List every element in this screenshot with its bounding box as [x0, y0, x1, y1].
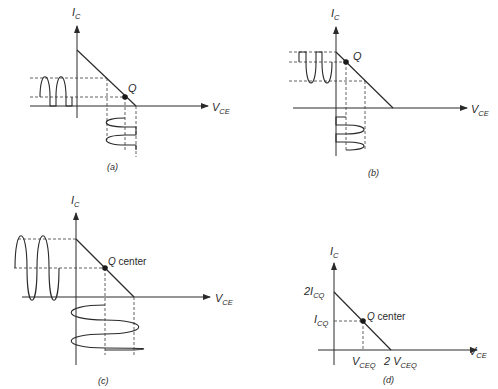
q-point: [343, 59, 349, 65]
x-axis-label: VCE: [471, 103, 490, 118]
x-axis-label: VCE: [469, 345, 488, 360]
y-axis-label: IC: [71, 194, 80, 209]
q-center-label: Q center: [367, 311, 406, 322]
output-waveform: [106, 118, 136, 150]
panel-c: Q center IC VCE (c): [14, 194, 234, 386]
q-point: [102, 265, 108, 271]
y-axis-label: IC: [72, 6, 81, 21]
panel-d: Q center IC VCE 2ICQ ICQ VCEQ 2 VCEQ (d): [303, 245, 488, 385]
q-point: [122, 94, 128, 100]
q-label: Q: [128, 82, 137, 94]
panel-a: Q IC VCE (a): [30, 6, 231, 172]
y-axis-label: IC: [331, 7, 340, 22]
y-tick-icq: ICQ: [314, 313, 328, 328]
q-center-label: Q center: [108, 256, 147, 267]
panel-b: Q IC VCE (b): [289, 7, 490, 178]
y-tick-2icq: 2ICQ: [303, 285, 325, 300]
y-axis-label: IC: [330, 245, 339, 260]
output-waveform: [336, 117, 364, 150]
x-axis-label: VCE: [212, 101, 231, 116]
caption: (b): [368, 168, 379, 178]
caption: (c): [98, 376, 109, 386]
caption: (d): [383, 375, 394, 385]
caption: (a): [107, 162, 118, 172]
q-label: Q: [353, 50, 362, 62]
x-tick-vceq: VCEQ: [352, 355, 376, 370]
input-waveform: [299, 52, 332, 83]
output-waveform: [71, 305, 143, 350]
load-line-diagram: Q IC VCE (a) Q IC VCE (b): [0, 0, 498, 389]
x-axis-label: VCE: [215, 292, 234, 307]
input-waveform: [40, 77, 72, 106]
q-point: [360, 318, 366, 324]
x-tick-2vceq: 2 VCEQ: [383, 355, 417, 370]
